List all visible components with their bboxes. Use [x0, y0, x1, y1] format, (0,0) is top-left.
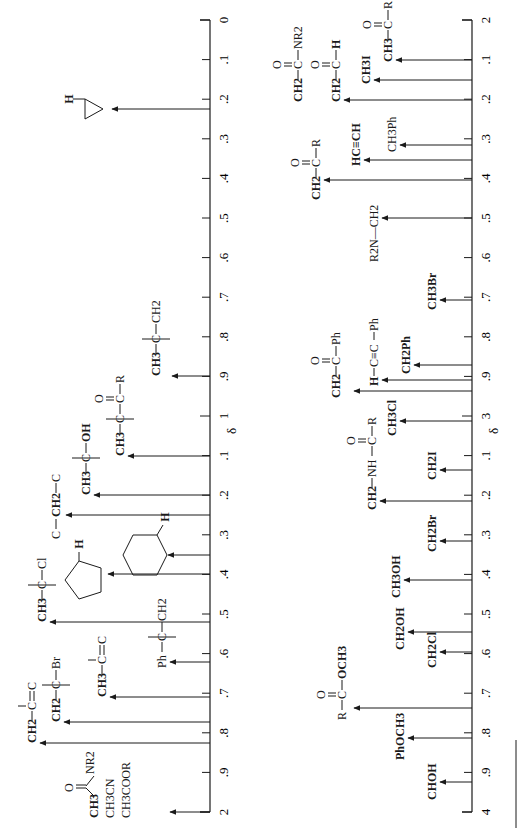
- axis-tick-label: .2: [216, 490, 231, 500]
- svg-text:Br: Br: [49, 657, 63, 669]
- axis-tick-label: .9: [478, 768, 493, 778]
- methylene-chloride-label: CH2Cl: [425, 631, 439, 668]
- svg-text:CH3: CH3: [95, 673, 109, 697]
- benzyl-beta-structure: Ph C CH2: [148, 598, 176, 668]
- svg-text:CH2: CH2: [291, 78, 305, 102]
- axis-tick-label: .7: [216, 688, 231, 698]
- methyl-bromide-label: CH3Br: [425, 272, 439, 310]
- svg-text:CH2: CH2: [49, 493, 63, 517]
- svg-text:C: C: [95, 636, 109, 644]
- svg-text:CH2: CH2: [155, 598, 169, 621]
- svg-text:CH3CN: CH3CN: [103, 778, 117, 818]
- svg-text:C: C: [291, 61, 305, 69]
- axis-tick-label: .4: [478, 173, 493, 183]
- axis-tick-label: .9: [478, 372, 493, 382]
- right-structures: CH3 C O R CH3I CH2 C O NR2 CH2 C: [270, 1, 439, 800]
- svg-text:H: H: [72, 539, 86, 549]
- axis-tick-label: .3: [478, 134, 493, 144]
- svg-text:O: O: [92, 394, 106, 403]
- methylene-oh-label: CH2OH: [393, 607, 407, 650]
- svg-text:C: C: [49, 531, 63, 539]
- axis-tick-label: .5: [216, 213, 231, 223]
- axis-tick-label: .3: [216, 530, 231, 540]
- svg-text:OCH3: OCH3: [335, 646, 349, 679]
- svg-text:O: O: [62, 783, 76, 792]
- svg-text:Ph: Ph: [155, 655, 169, 668]
- methyl-iodide-label: CH3I: [359, 55, 373, 84]
- axis-tick-label: .2: [478, 490, 493, 500]
- svg-text:O: O: [288, 158, 302, 167]
- methyl-chloride-label: CH3Cl: [385, 399, 399, 436]
- phenylacetylene-structure: H C≡C Ph: [367, 318, 381, 386]
- svg-text:H: H: [62, 94, 76, 104]
- axis-tick-label: .4: [216, 569, 231, 579]
- axis-tick-label: .8: [216, 728, 231, 738]
- axis-tick-label: .1: [478, 451, 493, 461]
- ketone-beta-structure: CH3 C C O R: [92, 375, 134, 456]
- svg-text:C: C: [329, 357, 343, 365]
- benzyl-label: CH2Ph: [399, 336, 413, 374]
- svg-text:O: O: [344, 436, 358, 445]
- svg-text:R: R: [309, 139, 323, 147]
- axis-tick-label: 0: [216, 17, 231, 24]
- svg-text:Cl: Cl: [35, 557, 49, 569]
- svg-text:NH: NH: [365, 459, 379, 477]
- amide-ch2-structure: CH2 C O NR2: [270, 26, 305, 102]
- svg-text:R: R: [381, 1, 395, 9]
- svg-text:C: C: [95, 656, 109, 664]
- methanol-label: CH3OH: [389, 555, 403, 598]
- allyl-methyl-structure: CH3 C C: [88, 636, 109, 697]
- axis-tick-label: 4: [478, 808, 493, 815]
- cyclopentane-structure: H: [65, 539, 101, 599]
- svg-text:O: O: [308, 60, 322, 69]
- axis-tick-label: .6: [478, 252, 493, 262]
- svg-text:CH2: CH2: [329, 374, 343, 398]
- svg-text:C: C: [335, 691, 349, 699]
- svg-text:C: C: [381, 21, 395, 29]
- axis-tick-label: .6: [216, 648, 231, 658]
- svg-text:CH2: CH2: [49, 698, 63, 722]
- axis-tick-label: 3: [478, 413, 493, 420]
- axis-tick-label: .8: [216, 332, 231, 342]
- axis-tick-label: .7: [478, 292, 493, 302]
- axis-tick-label: .6: [216, 252, 231, 262]
- phenyl-ketone-ch2-structure: CH2 C O Ph: [308, 332, 343, 398]
- svg-text:H: H: [158, 512, 172, 522]
- methylene-iodide-label: CH2I: [425, 451, 439, 480]
- svg-text:C: C: [49, 474, 63, 482]
- svg-text:C: C: [113, 395, 127, 403]
- axis-tick-label: .3: [478, 530, 493, 540]
- alkyl-structure: CH3 C CH2: [142, 300, 170, 376]
- svg-text:NR2: NR2: [291, 26, 305, 49]
- right-delta-label: δ: [486, 428, 501, 434]
- svg-text:CH2: CH2: [309, 176, 323, 200]
- axis-tick-label: .1: [478, 55, 493, 65]
- left-delta-label: δ: [224, 428, 239, 434]
- axis-tick-label: .6: [478, 648, 493, 658]
- cyclohexane-structure: H: [123, 512, 172, 575]
- svg-text:O: O: [270, 60, 284, 69]
- svg-text:R: R: [335, 712, 349, 720]
- svg-text:CH2: CH2: [365, 486, 379, 510]
- svg-text:H: H: [329, 39, 343, 49]
- aldehyde-ch2-structure: CH2 C O H: [308, 39, 343, 102]
- axis-tick-label: .9: [216, 372, 231, 382]
- svg-text:C: C: [25, 702, 39, 710]
- chloride-beta-structure: CH3 C Cl: [28, 557, 56, 622]
- axis-tick-label: .1: [216, 451, 231, 461]
- bromide-beta-structure: CH2 C Br: [42, 657, 70, 722]
- acetylene-label: HC≡CH: [349, 122, 363, 166]
- ketone-ch2-structure: CH2 C O R: [288, 139, 323, 200]
- alcohol-beta-structure: CH3 C OH: [72, 423, 100, 495]
- methylene-bromide-label: CH2Br: [425, 514, 439, 552]
- carbinol-label: CHOH: [425, 763, 439, 800]
- svg-text:CH3: CH3: [381, 38, 395, 62]
- axis-tick-label: .5: [478, 213, 493, 223]
- axis-tick-label: .4: [216, 173, 231, 183]
- svg-text:R: R: [113, 375, 127, 383]
- axis-tick-label: 2: [478, 17, 493, 24]
- svg-text:C: C: [309, 159, 323, 167]
- allyl-methylene-structure: CH2 C C: [18, 682, 39, 743]
- amide-nh-ch2-structure: CH2 NH C O R: [344, 417, 379, 510]
- axis-tick-label: .2: [478, 94, 493, 104]
